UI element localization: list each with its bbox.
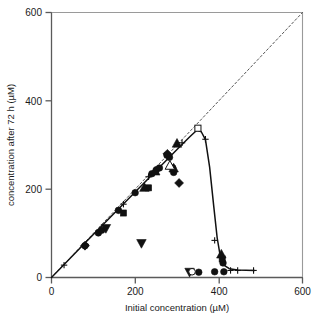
y-tick-label-0: 0	[36, 272, 42, 283]
marker-open-circle	[189, 268, 196, 275]
y-tick-label-400: 400	[25, 96, 42, 107]
y-axis-ticks	[46, 13, 52, 278]
x-tick-label-400: 400	[211, 286, 228, 297]
marker-filled-down-triangle	[137, 240, 146, 249]
scatter-plot: 600 400 200 0 0 200 400 600 Initial conc…	[0, 0, 326, 319]
marker-filled-square	[120, 210, 126, 216]
marker-plus	[234, 267, 240, 273]
y-axis-title: concentration after 72 h (µM)	[5, 84, 16, 206]
x-axis-title: Initial concentration (µM)	[125, 302, 229, 313]
marker-open-square	[195, 125, 201, 131]
marker-filled-circle	[132, 189, 139, 196]
data-markers	[61, 125, 257, 277]
x-tick-label-600: 600	[294, 286, 311, 297]
marker-filled-diamond	[81, 241, 90, 250]
marker-filled-circle	[221, 268, 228, 275]
marker-plus	[250, 267, 256, 273]
marker-filled-diamond	[175, 179, 184, 188]
x-tick-label-0: 0	[49, 286, 55, 297]
x-tick-label-200: 200	[127, 286, 144, 297]
marker-filled-up-triangle	[217, 249, 226, 258]
chart-figure: 600 400 200 0 0 200 400 600 Initial conc…	[0, 0, 326, 319]
y-tick-label-600: 600	[25, 7, 42, 18]
marker-filled-circle	[211, 268, 218, 275]
marker-filled-circle	[195, 269, 202, 276]
x-axis-ticks	[52, 278, 303, 284]
y-tick-label-200: 200	[25, 184, 42, 195]
